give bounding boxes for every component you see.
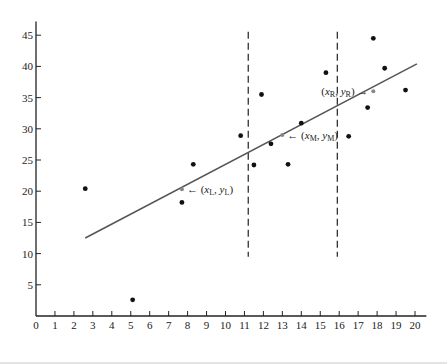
data-point xyxy=(324,70,329,75)
x-tick-label: 18 xyxy=(372,319,384,331)
data-point xyxy=(259,92,264,97)
data-point xyxy=(286,162,291,167)
x-tick-label: 15 xyxy=(315,319,327,331)
y-tick-label: 35 xyxy=(22,92,34,104)
x-tick-label: 11 xyxy=(239,319,250,331)
y-tick-label: 5 xyxy=(28,279,34,291)
data-point xyxy=(346,134,351,139)
data-point xyxy=(365,105,370,110)
data-point xyxy=(130,297,135,302)
data-point xyxy=(83,186,88,191)
y-tick-label: 40 xyxy=(22,60,34,72)
x-tick-label: 2 xyxy=(71,319,77,331)
data-points xyxy=(83,36,408,302)
x-tick-label: 13 xyxy=(277,319,289,331)
x-tick-label: 10 xyxy=(220,319,232,331)
data-point xyxy=(382,66,387,71)
annotation-label: (xR, yR) → xyxy=(321,85,368,99)
x-tick-label: 4 xyxy=(109,319,115,331)
x-tick-label: 1 xyxy=(52,319,58,331)
x-tick-label: 9 xyxy=(204,319,210,331)
x-tick-label: 12 xyxy=(258,319,269,331)
median-marker xyxy=(180,187,184,191)
x-tick-label: 8 xyxy=(185,319,191,331)
x-tick-label: 14 xyxy=(296,319,308,331)
annotation-label: ← (xM, yM) xyxy=(287,129,338,143)
data-point xyxy=(269,141,274,146)
data-point xyxy=(191,162,196,167)
median-marker xyxy=(371,89,375,93)
x-tick-label: 6 xyxy=(147,319,153,331)
data-point xyxy=(299,121,304,126)
y-tick-label: 15 xyxy=(22,216,34,228)
x-tick-label: 7 xyxy=(166,319,172,331)
y-tick-label: 10 xyxy=(22,248,34,260)
y-tick-label: 45 xyxy=(22,29,34,41)
scatter-chart: 0123456789101112131415161718192051015202… xyxy=(0,0,447,364)
vertical-dashed-lines xyxy=(248,32,337,257)
data-point xyxy=(180,200,185,205)
data-point xyxy=(403,88,408,93)
annotation-label: ← (xL, yL) xyxy=(187,183,233,197)
annotations: ← (xL, yL)← (xM, yM)(xR, yR) → xyxy=(180,85,375,197)
x-tick-label: 20 xyxy=(410,319,422,331)
data-point xyxy=(371,36,376,41)
x-tick-label: 17 xyxy=(353,319,365,331)
x-tick-label: 5 xyxy=(128,319,134,331)
x-tick-label: 16 xyxy=(334,319,346,331)
x-tick-label: 0 xyxy=(33,319,39,331)
y-tick-label: 20 xyxy=(22,185,34,197)
x-tick-label: 3 xyxy=(90,319,96,331)
data-point xyxy=(252,163,257,168)
x-tick-label: 19 xyxy=(391,319,403,331)
y-tick-label: 30 xyxy=(22,123,34,135)
y-tick-label: 25 xyxy=(22,154,34,166)
axes: 0123456789101112131415161718192051015202… xyxy=(22,21,426,331)
median-marker xyxy=(280,133,284,137)
data-point xyxy=(238,133,243,138)
